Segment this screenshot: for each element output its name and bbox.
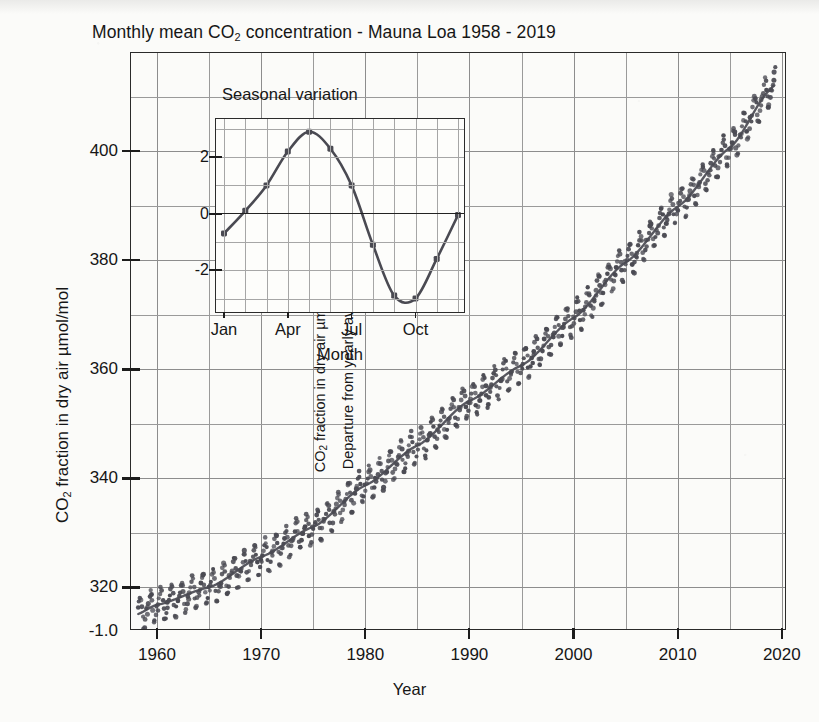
data-point (525, 353, 529, 357)
data-point (409, 429, 414, 434)
data-point (611, 278, 616, 283)
data-point (684, 214, 689, 219)
data-point (549, 343, 554, 348)
data-point (736, 151, 740, 155)
data-point (697, 180, 702, 185)
x-axis-tick (260, 628, 262, 639)
data-point (311, 527, 315, 531)
data-point (417, 437, 421, 441)
inset-y-axis-tick-label: -2 (195, 261, 209, 279)
data-point (385, 465, 389, 469)
data-point (451, 405, 456, 410)
data-point (351, 501, 356, 506)
data-point (718, 160, 723, 165)
x-axis-tick (468, 628, 470, 639)
data-point (280, 546, 284, 550)
x-axis-tick-label: 2020 (763, 645, 801, 665)
data-point (510, 369, 514, 373)
figure-root: Monthly mean CO2 concentration - Mauna L… (0, 0, 819, 722)
data-point (635, 256, 639, 260)
data-point (275, 541, 279, 545)
data-point (530, 361, 535, 366)
data-point (317, 518, 321, 522)
data-point (385, 470, 390, 475)
data-point (591, 306, 596, 311)
data-point (378, 461, 383, 466)
data-point (659, 206, 664, 211)
data-point (500, 376, 505, 381)
data-point (750, 105, 755, 110)
data-point (278, 563, 283, 568)
inset-x-axis-label: Month (215, 345, 465, 364)
data-point (185, 601, 190, 606)
data-point (625, 258, 630, 263)
axis-extra-label: -1.0 (89, 621, 118, 641)
inset-gridline-vertical (458, 119, 459, 312)
data-point (456, 417, 460, 421)
data-point (254, 553, 258, 557)
data-point (493, 367, 498, 372)
data-point (226, 590, 230, 594)
data-point (327, 507, 331, 511)
data-point (770, 88, 774, 92)
data-point (274, 533, 279, 538)
data-point (358, 482, 362, 486)
data-point (309, 540, 314, 545)
data-point (701, 168, 706, 173)
data-point (504, 359, 508, 363)
chart-title-post: concentration - Mauna Loa 1958 - 2019 (241, 22, 556, 42)
data-point (719, 148, 724, 153)
data-point (281, 542, 285, 546)
data-point (639, 238, 644, 243)
data-point (705, 178, 710, 183)
data-point (156, 608, 161, 613)
data-point (601, 301, 605, 305)
inset-gridline-horizontal (216, 157, 464, 158)
data-point (430, 417, 435, 422)
data-point (291, 536, 296, 541)
y-axis-tick-label: 380 (90, 250, 118, 270)
data-point (771, 83, 776, 88)
y-axis-label-post: fraction in dry air µmol/mol (53, 287, 72, 491)
data-point (240, 567, 244, 571)
data-point (437, 423, 442, 428)
data-point (730, 140, 735, 145)
data-point (407, 443, 411, 447)
data-point (389, 458, 394, 463)
inset-gridline-vertical (267, 119, 268, 312)
data-point (463, 394, 468, 399)
data-point (226, 584, 231, 589)
data-point (258, 565, 262, 569)
data-point (746, 135, 750, 139)
data-point (665, 218, 670, 223)
data-point (646, 237, 650, 241)
data-point (270, 549, 275, 554)
data-point (489, 382, 494, 387)
inset-gridline-horizontal (216, 242, 464, 243)
data-point (565, 309, 569, 313)
data-point (552, 330, 557, 335)
data-point (655, 230, 660, 235)
data-point (718, 153, 722, 157)
data-point (479, 392, 483, 396)
data-point (187, 590, 192, 595)
x-axis-tick-label: 2010 (659, 645, 697, 665)
data-point (597, 274, 602, 279)
data-point (264, 541, 268, 545)
data-point (637, 230, 642, 235)
data-point (333, 512, 338, 517)
data-point (289, 543, 294, 548)
data-point (621, 280, 625, 284)
data-point (475, 413, 479, 417)
data-point (628, 242, 633, 247)
inset-x-axis-tick-label: Oct (403, 320, 429, 339)
data-point (434, 445, 439, 450)
data-point (375, 476, 379, 480)
inset-gridline-vertical (288, 119, 289, 312)
data-point (188, 585, 192, 589)
data-point (642, 258, 647, 263)
data-point (483, 383, 488, 388)
data-point (707, 173, 712, 178)
data-point (411, 450, 415, 454)
data-point (535, 337, 540, 342)
